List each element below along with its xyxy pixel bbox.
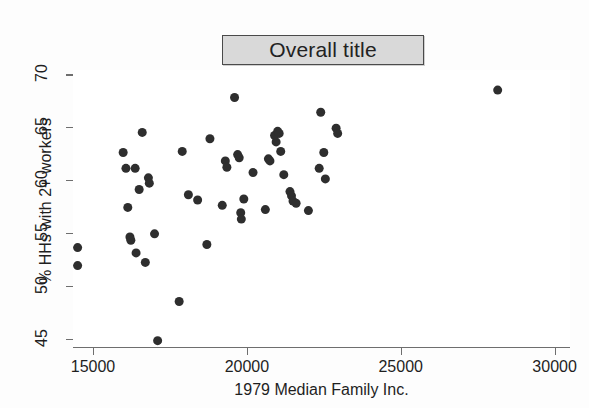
data-point [135, 185, 144, 194]
y-axis-tick [66, 339, 73, 340]
data-point [276, 147, 285, 156]
data-point [138, 128, 147, 137]
y-axis-tick [66, 127, 73, 128]
data-point [123, 203, 132, 212]
data-point [145, 179, 154, 188]
data-point [193, 196, 202, 205]
data-point [493, 86, 502, 95]
x-axis-tick-label: 25000 [356, 358, 446, 376]
data-point [279, 170, 288, 179]
chart-title-box: Overall title [222, 35, 424, 65]
x-axis-tick [401, 348, 402, 355]
data-points-layer [73, 70, 570, 347]
data-point [119, 148, 128, 157]
data-point [184, 190, 193, 199]
data-point [205, 134, 214, 143]
data-point [73, 261, 82, 270]
y-axis-tick [66, 74, 73, 75]
data-point [333, 129, 342, 138]
data-point [235, 153, 244, 162]
data-point [132, 248, 141, 257]
x-axis-tick [93, 348, 94, 355]
data-point [218, 201, 227, 210]
data-point [131, 164, 140, 173]
data-point [316, 108, 325, 117]
data-point [272, 137, 281, 146]
x-axis-tick-label: 15000 [48, 358, 138, 376]
data-point [121, 164, 130, 173]
plot-area [73, 70, 570, 347]
y-axis-title: % HHs with 2+ workers [37, 76, 55, 326]
data-point [319, 148, 328, 157]
data-point [261, 205, 270, 214]
x-axis-title: 1979 Median Family Inc. [73, 381, 570, 399]
x-axis-tick [247, 348, 248, 355]
data-point [315, 164, 324, 173]
x-axis-line [73, 347, 570, 348]
x-axis-tick-label: 20000 [202, 358, 292, 376]
data-point [239, 194, 248, 203]
chart-title: Overall title [223, 36, 423, 64]
data-point [150, 229, 159, 238]
data-point [126, 236, 135, 245]
data-point [141, 258, 150, 267]
data-point [202, 240, 211, 249]
data-point [321, 174, 330, 183]
data-point [265, 156, 274, 165]
y-axis-tick [66, 180, 73, 181]
data-point [230, 93, 239, 102]
x-axis-tick-label: 30000 [510, 358, 589, 376]
y-axis-tick [66, 286, 73, 287]
data-point [249, 168, 258, 177]
data-point [275, 129, 284, 138]
data-point [153, 336, 162, 345]
data-point [237, 215, 246, 224]
x-axis-tick [555, 348, 556, 355]
scatter-plot-figure: Overall title 455055606570 1500020000250… [0, 0, 589, 408]
y-axis-tick [66, 233, 73, 234]
data-point [73, 243, 82, 252]
data-point [304, 206, 313, 215]
data-point [178, 147, 187, 156]
data-point [175, 297, 184, 306]
data-point [292, 199, 301, 208]
data-point [222, 163, 231, 172]
